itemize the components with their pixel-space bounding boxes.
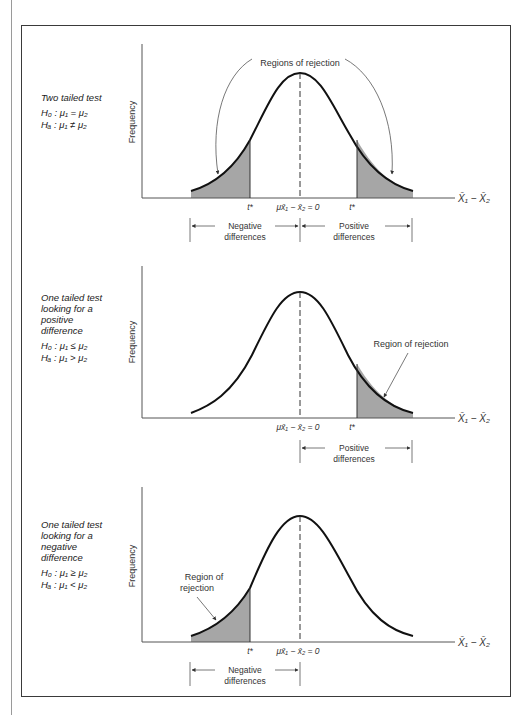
panel-1-right-annotation-arrow xyxy=(345,59,392,174)
panel-3-chart: Region of rejection Frequency X̄₁ − X̄₂ … xyxy=(127,487,490,686)
panel-3-mean-label: μx̄₁ − x̄₂ = 0 xyxy=(275,646,319,656)
panel-1-critical-label-right: t* xyxy=(349,202,355,212)
panel-1-positive-label-2: differences xyxy=(333,232,374,242)
panel-3-x-label: X̄₁ − X̄₂ xyxy=(457,636,490,648)
panel-2-positive-label-2: differences xyxy=(333,454,374,464)
panel-3-critical-label: t* xyxy=(247,646,253,656)
panel-2-y-label: Frequency xyxy=(127,320,137,363)
panel-2-annotation: Region of rejection xyxy=(373,339,448,349)
panel-2-x-label: X̄₁ − X̄₂ xyxy=(457,412,490,424)
panel-3-annotation-arrow xyxy=(197,597,216,620)
panel-3-annotation-line-1: Region of xyxy=(185,572,224,582)
panel-1-chart: Regions of rejection Frequency X̄₁ − X̄₂… xyxy=(127,44,490,242)
distribution-diagrams: Regions of rejection Frequency X̄₁ − X̄₂… xyxy=(0,0,529,715)
panel-1-positive-label-1: Positive xyxy=(339,221,369,231)
panel-2-annotation-arrow xyxy=(384,353,408,397)
panel-1-normal-curve xyxy=(191,73,413,191)
panel-1-y-label: Frequency xyxy=(127,100,137,143)
panel-2-positive-label-1: Positive xyxy=(339,443,369,453)
panel-3-left-rejection-region xyxy=(191,588,250,642)
panel-1-negative-label-2: differences xyxy=(224,232,265,242)
panel-3-annotation-line-2: rejection xyxy=(180,583,214,593)
panel-1-annotation: Regions of rejection xyxy=(260,58,340,68)
panel-1-left-rejection-region xyxy=(191,140,250,198)
panel-2-chart: Region of rejection Frequency X̄₁ − X̄₂ … xyxy=(127,266,490,464)
panel-1-mean-label: μx̄₁ − x̄₂ = 0 xyxy=(275,202,319,212)
panel-2-mean-label: μx̄₁ − x̄₂ = 0 xyxy=(275,422,319,432)
panel-3-normal-curve xyxy=(191,516,413,636)
panel-1-negative-label-1: Negative xyxy=(228,221,262,231)
panel-1-critical-label-left: t* xyxy=(247,202,253,212)
panel-2-critical-label: t* xyxy=(349,422,355,432)
panel-3-y-label: Frequency xyxy=(127,544,137,587)
panel-1-x-label: X̄₁ − X̄₂ xyxy=(457,192,490,204)
panel-3-negative-label-2: differences xyxy=(224,676,265,686)
panel-3-negative-label-1: Negative xyxy=(228,665,262,675)
